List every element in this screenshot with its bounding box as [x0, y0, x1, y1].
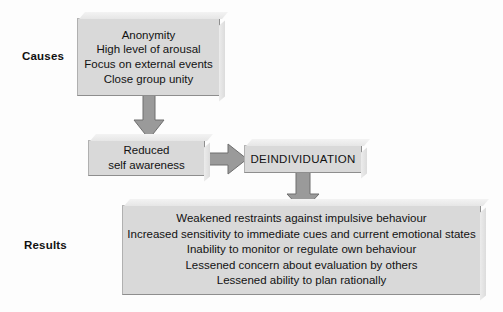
reduced-line-1: Reduced: [123, 143, 169, 158]
results-line-4: Lessened concern about evaluation by oth…: [185, 258, 417, 273]
causes-box: Anonymity High level of arousal Focus on…: [77, 18, 220, 96]
reduced-line-2: self awareness: [108, 158, 185, 173]
results-line-2: Increased sensitivity to immediate cues …: [127, 227, 475, 242]
section-label-results: Results: [24, 239, 67, 251]
section-label-causes: Causes: [22, 50, 64, 62]
deindividuation-label: DEINDIVIDUATION: [250, 152, 355, 167]
causes-line-4: Close group unity: [104, 72, 194, 87]
reduced-self-awareness-box: Reduced self awareness: [88, 140, 205, 176]
deindividuation-diagram: Causes Results Anonymity High level of a…: [0, 0, 503, 312]
arrow-down-causes-to-reduced-icon: [133, 92, 165, 140]
results-line-5: Lessened ability to plan rationally: [217, 273, 386, 288]
causes-line-3: Focus on external events: [84, 57, 213, 72]
results-box: Weakened restraints against impulsive be…: [122, 205, 481, 295]
causes-line-1: Anonymity: [122, 28, 176, 43]
results-line-1: Weakened restraints against impulsive be…: [176, 211, 426, 226]
results-line-3: Inability to monitor or regulate own beh…: [187, 242, 417, 257]
causes-line-2: High level of arousal: [96, 42, 200, 57]
deindividuation-box: DEINDIVIDUATION: [244, 145, 362, 173]
